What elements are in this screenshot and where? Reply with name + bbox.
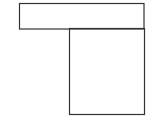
bottom-rectangle — [70, 29, 145, 115]
top-rectangle — [20, 4, 145, 30]
diagram-canvas — [0, 0, 157, 138]
